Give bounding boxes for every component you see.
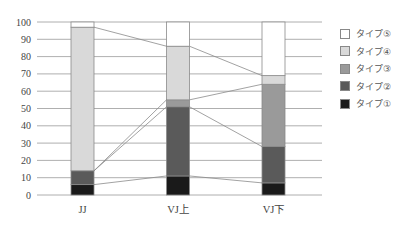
y-tick-label: 90 xyxy=(21,34,31,45)
y-tick-label: 50 xyxy=(21,103,31,114)
bar-segment xyxy=(262,22,285,76)
legend-swatch xyxy=(340,46,350,56)
legend-swatch xyxy=(340,64,350,74)
legend-item-type1: タイプ① xyxy=(340,95,391,113)
legend-label: タイプ① xyxy=(356,97,391,110)
connector-line xyxy=(94,27,167,46)
legend: タイプ⑤ タイプ④ タイプ③ タイプ② タイプ① xyxy=(340,25,391,113)
connector-line xyxy=(190,107,263,147)
bar-group xyxy=(262,22,285,195)
y-tick-label: 40 xyxy=(21,120,31,131)
bar-segment xyxy=(71,22,94,27)
bar-segment xyxy=(71,185,94,195)
connector-line xyxy=(190,46,263,75)
connector-line xyxy=(94,176,167,185)
y-tick-label: 30 xyxy=(21,138,31,149)
connector-line xyxy=(190,84,263,100)
bar-segment xyxy=(167,100,190,107)
legend-label: タイプ⑤ xyxy=(356,27,391,40)
y-tick-label: 80 xyxy=(21,51,31,62)
bar-segment xyxy=(262,76,285,85)
y-tick-label: 70 xyxy=(21,68,31,79)
bar-segment xyxy=(71,171,94,185)
bar-group xyxy=(167,22,190,195)
bar-segment xyxy=(167,46,190,100)
y-tick-label: 60 xyxy=(21,86,31,97)
connector-line xyxy=(190,176,263,183)
legend-label: タイプ② xyxy=(356,80,391,93)
x-category-label: VJ上 xyxy=(167,204,189,215)
bar-segment xyxy=(262,84,285,146)
legend-item-type2: タイプ② xyxy=(340,78,391,96)
bar-segment xyxy=(167,176,190,195)
bar-group xyxy=(71,22,94,195)
legend-swatch xyxy=(340,81,350,91)
legend-swatch xyxy=(340,99,350,109)
bar-segment xyxy=(262,183,285,195)
y-tick-label: 100 xyxy=(16,17,31,28)
legend-item-type3: タイプ③ xyxy=(340,60,391,78)
y-tick-label: 20 xyxy=(21,155,31,166)
y-tick-label: 10 xyxy=(21,172,31,183)
legend-item-type4: タイプ④ xyxy=(340,43,391,61)
legend-label: タイプ④ xyxy=(356,45,391,58)
bar-segment xyxy=(262,147,285,183)
bar-segment xyxy=(167,22,190,46)
legend-swatch xyxy=(340,29,350,39)
bar-segment xyxy=(167,107,190,176)
legend-label: タイプ③ xyxy=(356,62,391,75)
x-category-label: VJ下 xyxy=(263,204,285,215)
connector-line xyxy=(94,107,167,171)
bar-segment xyxy=(71,27,94,171)
x-category-label: JJ xyxy=(78,204,86,215)
legend-item-type5: タイプ⑤ xyxy=(340,25,391,43)
y-tick-label: 0 xyxy=(26,190,31,201)
